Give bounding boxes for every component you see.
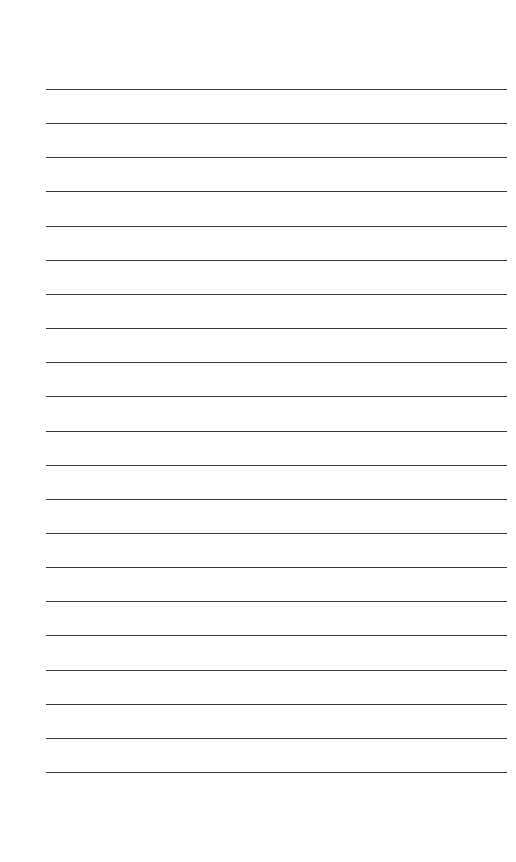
- ruled-line: [46, 362, 507, 363]
- ruled-line: [46, 738, 507, 739]
- ruled-line: [46, 157, 507, 158]
- lined-page: [0, 0, 516, 862]
- ruled-line: [46, 226, 507, 227]
- ruled-line: [46, 260, 507, 261]
- ruled-line: [46, 328, 507, 329]
- ruled-line: [46, 533, 507, 534]
- ruled-line: [46, 294, 507, 295]
- ruled-line: [46, 567, 507, 568]
- ruled-line: [46, 704, 507, 705]
- ruled-line: [46, 499, 507, 500]
- ruled-line: [46, 396, 507, 397]
- ruled-line: [46, 465, 507, 466]
- ruled-line: [46, 431, 507, 432]
- ruled-line: [46, 670, 507, 671]
- ruled-line: [46, 772, 507, 773]
- ruled-line: [46, 601, 507, 602]
- ruled-line: [46, 123, 507, 124]
- ruled-line: [46, 191, 507, 192]
- ruled-line: [46, 635, 507, 636]
- ruled-line: [46, 89, 507, 90]
